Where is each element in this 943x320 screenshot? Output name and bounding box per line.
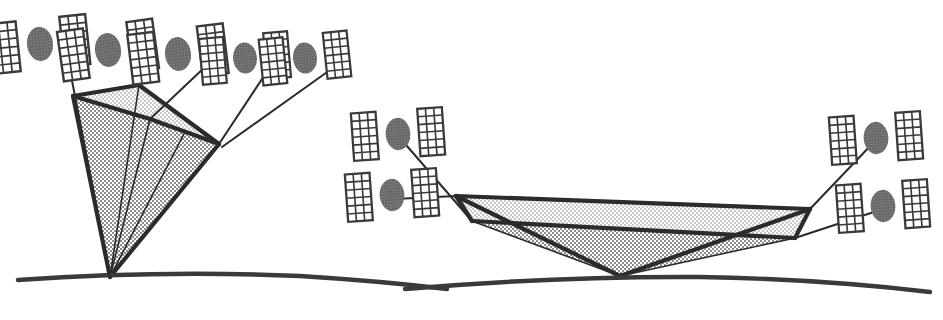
satellite-icon [259,31,352,86]
satellite-icon [836,179,930,233]
satellite-r4[interactable] [836,179,930,233]
coverage-cone-left [73,85,219,277]
satellite-coverage-diagram [0,0,943,320]
satellite-icon [829,111,923,165]
earth-surface-arc-right [405,277,930,292]
diagram-canvas [0,0,943,320]
satellite-r3[interactable] [829,111,923,165]
cone-left-dark-facet [73,96,219,277]
satellite-l5[interactable] [259,31,352,86]
satellite-r1[interactable] [351,107,445,161]
satellite-r2[interactable] [345,168,439,222]
earth-surface-arc-left [18,274,447,289]
satellite-icon [351,107,445,161]
satellite-icon [345,168,439,222]
